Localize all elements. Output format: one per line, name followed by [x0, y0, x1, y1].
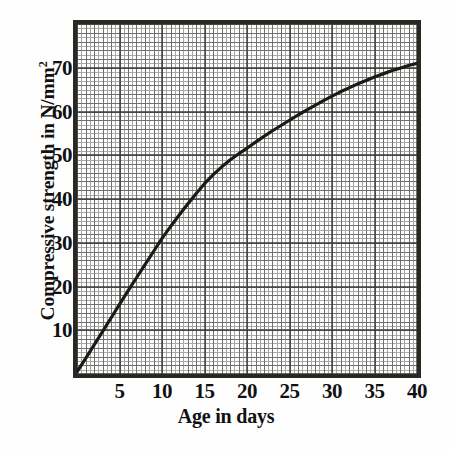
y-tick-label-70: 70	[32, 55, 72, 80]
x-tick-label-5: 5	[98, 379, 142, 404]
y-tick-label-20: 20	[32, 274, 72, 299]
x-tick-label-20: 20	[225, 379, 269, 404]
x-tick-label-40: 40	[395, 379, 439, 404]
y-tick-label-40: 40	[32, 187, 72, 212]
x-tick-label-15: 15	[183, 379, 227, 404]
plot-inner	[77, 24, 417, 374]
plot-area	[73, 20, 421, 378]
y-tick-label-60: 60	[32, 99, 72, 124]
compressive-strength-curve	[77, 24, 417, 374]
x-tick-label-35: 35	[353, 379, 397, 404]
x-tick-label-30: 30	[310, 379, 354, 404]
x-tick-label-10: 10	[140, 379, 184, 404]
x-axis-tick-labels: 510152025303540	[0, 379, 452, 405]
y-tick-label-50: 50	[32, 143, 72, 168]
chart-figure: Compressive strength in N/mm2 1020304050…	[0, 0, 452, 450]
y-tick-label-30: 30	[32, 230, 72, 255]
x-tick-label-25: 25	[268, 379, 312, 404]
y-tick-label-10: 10	[32, 318, 72, 343]
x-axis-title: Age in days	[0, 405, 452, 428]
